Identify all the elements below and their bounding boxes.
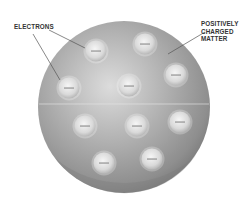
positive-matter-label: POSITIVELY CHARGED MATTER [201,20,239,43]
positive-label-line-2: CHARGED [201,28,239,36]
minus-sign-icon [175,121,185,122]
electron [133,32,158,57]
minus-sign-icon [64,87,74,88]
minus-sign-icon [147,158,157,159]
positive-label-line-3: MATTER [201,35,239,43]
minus-sign-icon [171,74,181,75]
positive-sphere [38,21,210,193]
electron [92,151,117,176]
electron [117,74,142,99]
electrons-label: ELECTRONS [14,23,54,31]
positive-label-line-1: POSITIVELY [201,20,239,28]
minus-sign-icon [80,125,90,126]
minus-sign-icon [99,162,109,163]
minus-sign-icon [124,85,134,86]
electron [168,110,193,135]
minus-sign-icon [132,125,142,126]
electron [125,114,150,139]
electron [164,63,189,88]
electron [73,114,98,139]
electron [84,39,109,64]
electron [140,147,165,172]
minus-sign-icon [91,50,101,51]
minus-sign-icon [140,43,150,44]
electron [57,76,82,101]
